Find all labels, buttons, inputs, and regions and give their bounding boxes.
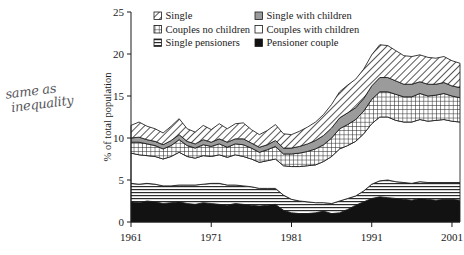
legend-item: Couples no children xyxy=(154,24,251,35)
y-tick-label: 0 xyxy=(119,216,125,228)
legend-swatch-solid-black-icon xyxy=(255,39,263,47)
legend-label: Couples no children xyxy=(166,24,251,35)
chart-screenshot: same as inequality xyxy=(0,0,464,255)
x-tick-label: 1991 xyxy=(361,231,383,243)
area-series-group xyxy=(131,45,460,222)
y-tick-label: 10 xyxy=(113,132,125,144)
legend-label: Single with children xyxy=(267,10,353,21)
legend-label: Single pensioners xyxy=(166,37,240,48)
handwritten-annotation: same as inequality xyxy=(5,76,100,114)
x-tick-label: 1981 xyxy=(280,231,302,243)
y-tick-label: 20 xyxy=(113,48,125,60)
y-tick-label: 15 xyxy=(113,90,125,102)
legend-swatch-crosshatch-icon xyxy=(154,26,162,34)
y-tick-label: 5 xyxy=(119,174,125,186)
y-tick-label: 25 xyxy=(113,6,125,18)
legend-item: Single xyxy=(154,10,193,21)
x-tick-label: 2001 xyxy=(441,231,463,243)
stacked-area-chart: 051015202519611971198119912001% of total… xyxy=(100,0,464,255)
chart-canvas: 051015202519611971198119912001% of total… xyxy=(100,0,464,255)
legend-label: Single xyxy=(166,10,193,21)
legend-swatch-white-icon xyxy=(255,26,263,34)
legend-item: Single pensioners xyxy=(154,37,240,48)
legend-item: Pensioner couple xyxy=(255,37,339,48)
legend-swatch-horizontal-lines-icon xyxy=(154,39,162,47)
legend-item: Couples with children xyxy=(255,24,360,35)
chart-legend: SingleSingle with childrenCouples no chi… xyxy=(154,10,360,48)
legend-label: Pensioner couple xyxy=(267,37,339,48)
legend-item: Single with children xyxy=(255,10,352,21)
legend-swatch-solid-grey-icon xyxy=(255,12,263,20)
y-axis-title: % of total population xyxy=(102,72,113,162)
legend-label: Couples with children xyxy=(267,24,360,35)
x-tick-label: 1961 xyxy=(120,231,142,243)
legend-swatch-diagonal-hatch-icon xyxy=(154,12,162,20)
x-tick-label: 1971 xyxy=(200,231,222,243)
